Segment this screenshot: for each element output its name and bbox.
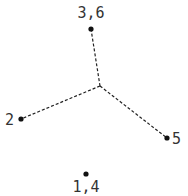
node-dot-n36 <box>88 26 93 31</box>
node-dot-n14 <box>83 171 88 176</box>
labels: 3,6251,4 <box>5 4 181 196</box>
node-label-n5: 5 <box>172 130 181 148</box>
edge-n2 <box>21 86 100 119</box>
node-label-n14: 1,4 <box>72 178 99 196</box>
edge-n36 <box>91 29 100 86</box>
node-label-n2: 2 <box>5 111 14 129</box>
edges <box>21 29 167 138</box>
node-label-n36: 3,6 <box>77 4 104 22</box>
tree-diagram: 3,6251,4 <box>0 0 188 196</box>
node-dot-n5 <box>164 135 169 140</box>
edge-n5 <box>100 86 167 138</box>
node-dot-n2 <box>18 116 23 121</box>
